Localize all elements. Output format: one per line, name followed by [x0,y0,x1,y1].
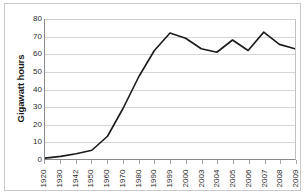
x-tick-mark [170,160,171,164]
y-tick-label: 10 [33,138,42,146]
y-tick-label: 30 [33,103,42,111]
y-axis-title-text: Gigawatt hours [16,54,27,122]
series-line-gigawatt-hours [45,19,295,159]
y-tick-label: 60 [33,50,42,58]
y-tick-label: 20 [33,121,42,129]
y-tick-label: 80 [33,15,42,23]
x-tick-label: 2009 [280,165,307,185]
y-tick-label: 40 [33,86,42,94]
plot-area [44,19,296,160]
x-tick-label-text: 2009 [291,170,300,188]
x-tick-mark [154,160,155,164]
y-axis-tick-labels: 01020304050607080 [27,15,42,163]
x-tick-mark [76,160,77,164]
x-tick-mark [186,160,187,164]
y-tick-label: 50 [33,68,42,76]
x-tick-mark [280,160,281,164]
x-tick-mark [91,160,92,164]
x-tick-mark [202,160,203,164]
x-tick-mark [44,160,45,164]
y-tick-label: 0 [38,156,42,164]
chart-frame: Gigawatt hours 01020304050607080 1920193… [4,3,301,191]
x-tick-mark [217,160,218,164]
y-tick-label: 70 [33,33,42,41]
x-tick-mark [123,160,124,164]
x-tick-mark [139,160,140,164]
x-tick-mark [107,160,108,164]
x-tick-mark [296,160,297,164]
x-tick-mark [265,160,266,164]
x-tick-mark [233,160,234,164]
x-tick-mark [249,160,250,164]
x-tick-mark [60,160,61,164]
data-line [45,32,295,158]
x-axis-tick-labels: 1920193019421950196019701980199019992000… [44,165,296,196]
